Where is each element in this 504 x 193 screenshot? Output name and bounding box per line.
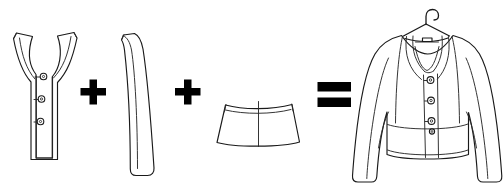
illustration-canvas: Jacket construction equation [0,0,504,193]
piece-peplum[interactable] [217,102,300,147]
jacket-neck-label [423,38,433,42]
equals-icon-bar-bottom [318,98,352,108]
placket-button-2-hole [40,98,42,100]
jacket-button-4-hole [431,131,433,133]
garment-equation-svg [0,0,504,193]
jacket-button-2-hole [430,99,432,101]
jacket-button-1-hole [429,79,431,81]
placket-button-1-hole [42,75,44,77]
jacket-button-3-hole [430,120,432,122]
equals-icon-bar-top [318,82,352,92]
placket-button-3-hole [39,120,41,122]
